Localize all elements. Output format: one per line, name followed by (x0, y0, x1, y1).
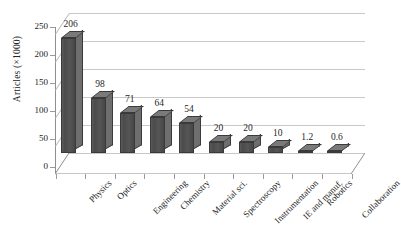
x-axis-category-label: Optics (115, 178, 139, 202)
x-axis-category-label: Collaboration (359, 178, 401, 220)
x-axis-category-label: Physics (87, 178, 114, 205)
